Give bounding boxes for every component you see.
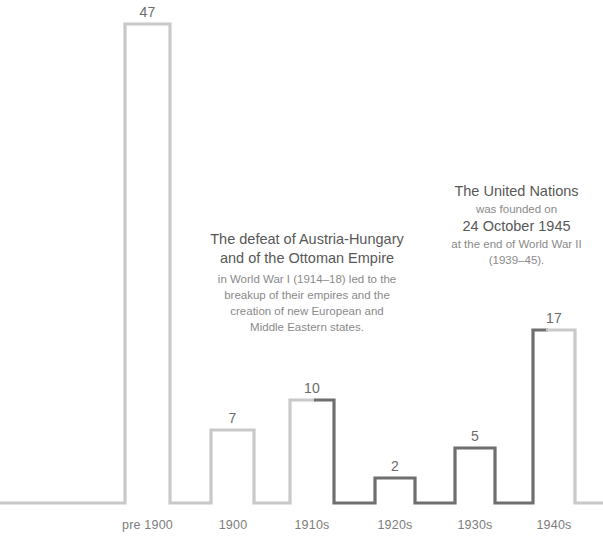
value-label-1930s: 5 [455, 428, 495, 444]
x-tick-1910s: 1910s [281, 518, 343, 532]
x-tick-pre-1900: pre 1900 [111, 518, 184, 532]
ww1-annotation-sub-line-4: Middle Eastern states. [204, 319, 410, 335]
un-annotation-sub-top-line-1: was founded on [434, 201, 599, 217]
x-tick-1940s: 1940s [523, 518, 585, 532]
bars-dark-path [314, 330, 548, 503]
value-label-1920s: 2 [375, 458, 415, 474]
ww1-annotation-head-line-2: and of the Ottoman Empire [204, 249, 410, 268]
un-annotation: The United Nations was founded on 24 Oct… [434, 182, 599, 268]
x-tick-1900: 1900 [202, 518, 264, 532]
un-annotation-sub-line-2: (1939–45). [434, 252, 599, 268]
ww1-annotation-sub-line-3: creation of new European and [204, 303, 410, 319]
ww1-annotation-sub-line-2: breakup of their empires and the [204, 287, 410, 303]
un-annotation-head-line-2: 24 October 1945 [434, 217, 599, 236]
bars-light-tail-path [546, 330, 603, 503]
value-label-1910s: 10 [290, 380, 334, 396]
ww1-annotation-head-line-1: The defeat of Austria-Hungary [204, 230, 410, 249]
un-annotation-head-line-1: The United Nations [434, 182, 599, 201]
un-annotation-sub-line-1: at the end of World War II [434, 236, 599, 252]
ww1-annotation: The defeat of Austria-Hungary and of the… [204, 230, 410, 335]
value-label-1900: 7 [211, 410, 254, 426]
value-label-1940s: 17 [533, 310, 575, 326]
x-tick-1930s: 1930s [444, 518, 506, 532]
x-tick-1920s: 1920s [364, 518, 426, 532]
value-label-pre-1900: 47 [125, 4, 170, 20]
ww1-annotation-sub-line-1: in World War I (1914–18) led to the [204, 271, 410, 287]
chart-container: 47 7 10 2 5 17 pre 1900 1900 1910s 1920s… [0, 0, 603, 560]
ww1-annotation-sub-block: in World War I (1914–18) led to the brea… [204, 271, 410, 335]
